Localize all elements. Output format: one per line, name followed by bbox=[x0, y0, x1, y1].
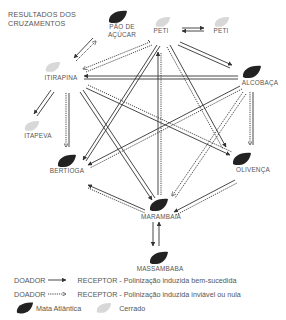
legend-row-biomes: Mata Atlântica Cerrado bbox=[36, 304, 145, 313]
leaf-icon-alcobaca bbox=[243, 66, 261, 78]
node-label-alcobaca: ALCOBAÇA bbox=[242, 79, 278, 87]
node-label-marambaia: MARAMBAIA bbox=[141, 213, 181, 221]
node-label-massambaba: MASSAMBABA bbox=[137, 265, 184, 273]
legend-row-failure: DOADOR RECEPTOR - Polinização induzida i… bbox=[14, 290, 241, 299]
leaf-icon-peti-1 bbox=[156, 17, 170, 27]
leaf-icon-olivenca bbox=[233, 153, 251, 165]
legend-receptor-label: RECEPTOR - Polinização induzida bem-suce… bbox=[78, 276, 237, 285]
node-label-pao-de-acucar: PÃO DE AÇÚCAR bbox=[108, 23, 136, 39]
node-label-itapeva: ITAPEVA bbox=[24, 132, 51, 140]
leaf-icon-itirapina bbox=[46, 62, 60, 72]
label-line: AÇÚCAR bbox=[108, 31, 136, 39]
leaf-icon-marambaia bbox=[150, 199, 168, 211]
node-label-peti-1: PETI bbox=[153, 27, 168, 35]
node-label-itirapina: ITIRAPINA bbox=[44, 74, 77, 82]
leaf-icon-legend-mata bbox=[17, 302, 33, 313]
leaf-icon-bertioga bbox=[58, 155, 76, 167]
legend-donor-label: DOADOR bbox=[14, 290, 46, 299]
leaf-icon-peti-2 bbox=[215, 17, 229, 27]
node-label-bertioga: BERTIOGA bbox=[50, 167, 85, 175]
legend-biome-cerrado: Cerrado bbox=[119, 304, 145, 313]
label-line: PÃO DE bbox=[108, 23, 136, 31]
legend-donor-label: DOADOR bbox=[14, 276, 46, 285]
legend-biome-mata: Mata Atlântica bbox=[36, 304, 81, 313]
node-label-olivenca: OLIVENÇA bbox=[236, 166, 270, 174]
legend-receptor-label: RECEPTOR - Polinização induzida inviável… bbox=[78, 290, 241, 299]
leaf-icon-itapeva bbox=[25, 121, 39, 131]
legend-row-success: DOADOR RECEPTOR - Polinização induzida b… bbox=[14, 276, 236, 285]
leaf-icon-pao-de-acucar bbox=[109, 11, 127, 23]
node-label-peti-2: PETI bbox=[213, 27, 228, 35]
leaf-icon-massambaba bbox=[150, 252, 168, 264]
